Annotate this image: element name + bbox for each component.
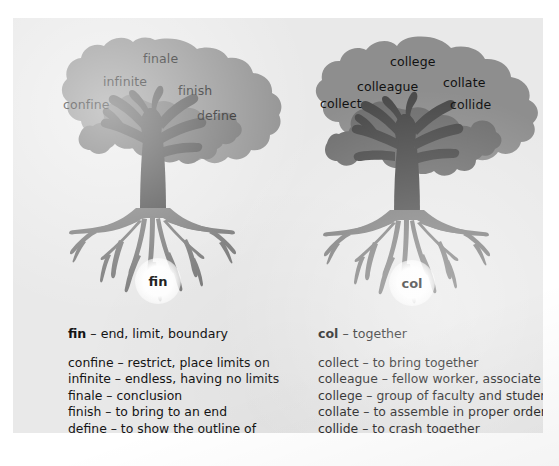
definition-list-col: collect – to bring together colleague – … xyxy=(318,355,543,433)
definitions-col: col – together collect – to bring togeth… xyxy=(318,326,543,433)
root-term-fin: fin xyxy=(68,326,86,341)
definitions-heading-fin: fin – end, limit, boundary xyxy=(68,326,318,341)
root-gloss-fin: – end, limit, boundary xyxy=(90,326,228,341)
canopy-word-college: college xyxy=(390,56,435,69)
canopy-word-infinite: infinite xyxy=(103,76,147,89)
definition-list-fin: confine – restrict, place limits on infi… xyxy=(68,355,318,433)
canopy-word-confine: confine xyxy=(63,99,110,112)
canopy-word-collate: collate xyxy=(443,77,485,90)
tree-diagram-fin: fin xyxy=(23,22,288,322)
definition-item: finale – conclusion xyxy=(68,388,318,404)
trunk-shape xyxy=(140,140,166,212)
canopy-word-collect: collect xyxy=(320,98,362,111)
definition-item: college – group of faculty and students xyxy=(318,388,543,404)
definition-item: finish – to bring to an end xyxy=(68,404,318,420)
definitions-fin: fin – end, limit, boundary confine – res… xyxy=(68,326,318,433)
scanned-page: fin xyxy=(0,0,559,466)
definition-item: colleague – fellow worker, associate xyxy=(318,371,543,387)
canopy-word-collide: collide xyxy=(450,99,491,112)
root-term-col: col xyxy=(318,326,338,341)
definition-item: collate – to assemble in proper order xyxy=(318,404,543,420)
canopy-word-finish: finish xyxy=(178,85,212,98)
definitions-heading-col: col – together xyxy=(318,326,543,341)
root-gloss-col: – together xyxy=(342,326,407,341)
definition-item: collide – to crash together xyxy=(318,421,543,433)
canopy-word-colleague: colleague xyxy=(357,81,418,94)
root-badge-col: col xyxy=(389,260,435,306)
definition-item: infinite – endless, having no limits xyxy=(68,371,318,387)
canopy-word-finale: finale xyxy=(143,53,178,66)
definition-item: collect – to bring together xyxy=(318,355,543,371)
trunk-shape xyxy=(394,148,420,214)
definition-item: confine – restrict, place limits on xyxy=(68,355,318,371)
figure-panel: fin xyxy=(13,18,543,433)
definition-item: define – to show the outline of xyxy=(68,421,318,433)
root-badge-fin: fin xyxy=(135,258,181,304)
canopy-word-define: define xyxy=(197,110,237,123)
